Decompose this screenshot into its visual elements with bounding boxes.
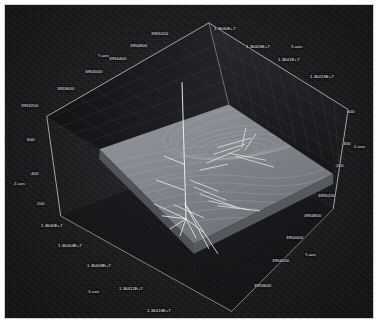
x-tick-bl-1: 1.3640E+7 bbox=[41, 223, 62, 228]
y-tick-3955200: 3955200 bbox=[151, 31, 168, 36]
y-tick-3954400: 3954400 bbox=[109, 56, 126, 61]
plot-3d-surface[interactable]: 3955200 3954800 3954400 3954000 3953600 … bbox=[4, 4, 374, 319]
z-tick-left-400: 400 bbox=[31, 171, 38, 176]
x-axis-name-bottom: X-axis bbox=[88, 289, 99, 294]
x-tick-top-3: 1.3641E+7 bbox=[278, 57, 299, 62]
x-tick-top-1: 1.3640E+7 bbox=[214, 26, 235, 31]
y-axis-name-top: Y-axis bbox=[98, 53, 109, 58]
x-axis-name-top: X-axis bbox=[291, 44, 302, 49]
y-tick-3954000: 3954000 bbox=[85, 69, 102, 74]
y-axis-name-bottom: Y-axis bbox=[305, 252, 316, 257]
x-tick-bl-2: 1.36404E+7 bbox=[58, 243, 82, 248]
y-tick-br-3954000: 3954000 bbox=[272, 258, 289, 263]
y-tick-br-3953600: 3953600 bbox=[254, 283, 271, 288]
y-tick-3954800: 3954800 bbox=[130, 43, 147, 48]
z-tick-right-400: 400 bbox=[343, 141, 350, 146]
x-tick-bl-5: 1.36416E+7 bbox=[147, 308, 171, 313]
x-tick-bl-4: 1.36412E+7 bbox=[119, 286, 143, 291]
scene-3d bbox=[5, 5, 373, 318]
y-tick-3953600: 3953600 bbox=[57, 86, 74, 91]
z-tick-left-600: 600 bbox=[27, 137, 34, 142]
x-tick-top-4: 1.36415E+7 bbox=[310, 74, 334, 79]
x-tick-bl-3: 1.36408E+7 bbox=[87, 263, 111, 268]
z-tick-right-600: 600 bbox=[347, 109, 354, 114]
z-tick-right-200: 200 bbox=[336, 163, 343, 168]
z-axis-name-left: Z-axis bbox=[14, 181, 25, 186]
screenshot-root: 3955200 3954800 3954400 3954000 3953600 … bbox=[0, 0, 378, 323]
z-tick-left-200: 200 bbox=[37, 201, 44, 206]
z-axis-name-right: Z-axis bbox=[354, 144, 365, 149]
y-tick-br-3955200: 3955200 bbox=[318, 193, 335, 198]
y-tick-br-3954800: 3954800 bbox=[304, 213, 321, 218]
y-tick-br-3954400: 3954400 bbox=[286, 235, 303, 240]
x-tick-top-2: 1.36405E+7 bbox=[246, 44, 270, 49]
y-tick-3953200: 3953200 bbox=[21, 103, 38, 108]
